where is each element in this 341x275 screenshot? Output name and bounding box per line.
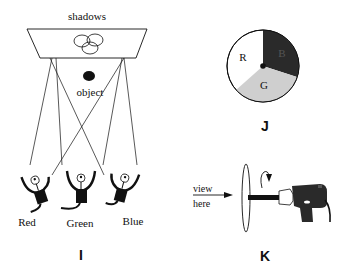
disc-label-g: G bbox=[260, 79, 268, 91]
panel-i: shadows object bbox=[18, 10, 147, 263]
rotation-arrow-head-icon bbox=[266, 174, 272, 182]
arrow-head-icon bbox=[224, 192, 233, 198]
disc-label-r: R bbox=[239, 51, 247, 63]
lamp-green bbox=[61, 171, 95, 209]
shadows-label: shadows bbox=[68, 10, 106, 22]
figure-canvas: shadows object bbox=[0, 0, 341, 275]
panel-label-j: J bbox=[261, 118, 269, 134]
lamp-blue bbox=[104, 168, 139, 210]
drill-icon bbox=[292, 184, 330, 222]
lamp-label-red: Red bbox=[18, 216, 36, 228]
panel-j: R B G J bbox=[227, 30, 299, 134]
object-blob bbox=[83, 71, 95, 81]
panel-label-k: K bbox=[260, 248, 270, 264]
lamp-red bbox=[20, 169, 58, 212]
drill-chuck bbox=[279, 189, 293, 205]
disc-label-b: B bbox=[278, 47, 285, 59]
lamp-label-green: Green bbox=[67, 217, 94, 229]
view-label-line1: view bbox=[193, 183, 213, 194]
rotation-arrow bbox=[261, 172, 269, 189]
drill-shaft bbox=[248, 195, 280, 200]
disc-center bbox=[260, 63, 266, 69]
colored-shadows bbox=[74, 34, 103, 54]
lamp-label-blue: Blue bbox=[123, 215, 144, 227]
panel-k: view here K bbox=[193, 164, 330, 264]
object-label: object bbox=[77, 86, 104, 98]
view-label-line2: here bbox=[193, 198, 211, 209]
panel-label-i: I bbox=[79, 247, 83, 263]
